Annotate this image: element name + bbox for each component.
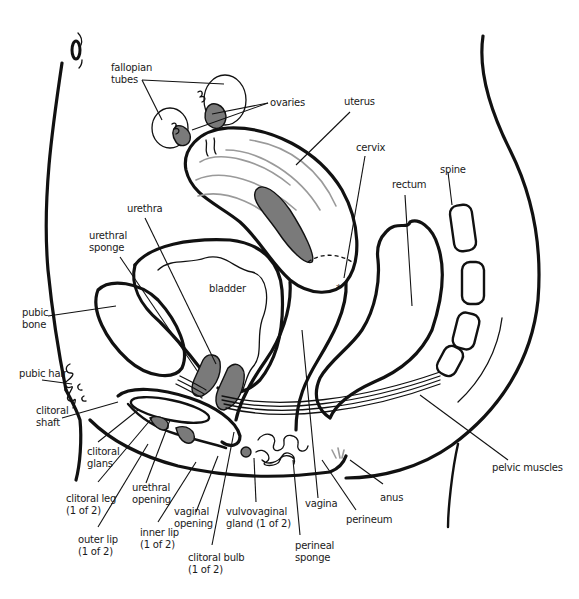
label-inner-lip: inner lip (1 of 2) (140, 527, 179, 551)
vertebra (462, 262, 484, 304)
cervix-os-marker: * (336, 282, 342, 295)
pubic-hair (65, 364, 86, 408)
mons-outline (66, 390, 81, 480)
abdomen-outline (46, 63, 66, 390)
clitoral-shaft-shape (129, 392, 211, 428)
label-pubic-hair: pubic hair (19, 368, 67, 380)
label-clitoral-glans: clitoral glans (87, 446, 120, 470)
label-clitoral-shaft: clitoral shaft (36, 405, 69, 429)
label-urethra: urethra (127, 203, 162, 215)
bladder-lower-wall (134, 265, 200, 368)
vulvovaginal-gland-shape (241, 447, 251, 457)
vertebra (451, 311, 481, 351)
navel-center (75, 47, 78, 54)
label-outer-lip: outer lip (1 of 2) (78, 534, 118, 558)
vertebra (449, 204, 477, 253)
label-clitoral-leg: clitoral leg (1 of 2) (66, 493, 116, 517)
label-urethral-sponge: urethral sponge (89, 230, 127, 254)
label-perineal-sponge: perineal sponge (295, 540, 334, 564)
perineal-sponge-shape (256, 434, 308, 465)
label-vaginal-opening: vaginal opening (174, 506, 213, 530)
label-cervix: cervix (356, 142, 385, 154)
rectum-shape (316, 221, 442, 418)
label-vulvovaginal-gland: vulvovaginal gland (1 of 2) (226, 506, 291, 530)
sacrum-line (458, 318, 502, 402)
label-bladder: bladder (209, 283, 246, 295)
label-spine: spine (440, 164, 466, 176)
label-vagina: vagina (305, 498, 337, 510)
anus-marks (332, 448, 344, 458)
label-ovaries: ovaries (270, 97, 305, 109)
label-clitoral-bulb: clitoral bulb (1 of 2) (188, 552, 245, 576)
cervix-boundary (308, 255, 352, 262)
label-anus: anus (380, 492, 403, 504)
label-pelvic-muscles: pelvic muscles (492, 462, 563, 474)
label-urethral-opening: urethral opening (132, 482, 171, 506)
label-rectum: rectum (392, 179, 426, 191)
navel-fold (79, 60, 82, 68)
label-fallopian-tubes: fallopian tubes (111, 62, 152, 86)
label-uterus: uterus (344, 96, 375, 108)
female-pelvic-anatomy-diagram: * (0, 0, 579, 599)
label-perineum: perineum (346, 514, 392, 526)
label-pubic-bone: pubic bone (22, 307, 48, 331)
buttock-fold (448, 444, 458, 527)
clitoral-bulb-shape (176, 427, 194, 443)
